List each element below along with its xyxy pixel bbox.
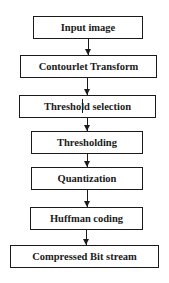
node-compressed-bit-stream: Compressed Bit stream: [10, 245, 159, 268]
node-label: Input image: [61, 22, 116, 33]
node-quantization: Quantization: [31, 167, 143, 190]
arrow-down-icon: [87, 154, 88, 167]
node-label: Threshold selection: [44, 101, 131, 112]
node-label: Compressed Bit stream: [32, 251, 137, 262]
arrow-down-icon: [87, 78, 88, 95]
node-threshold-selection: Threshold selection: [19, 95, 156, 118]
node-label: Contourlet Transform: [39, 61, 139, 72]
node-label: Quantization: [58, 173, 117, 184]
node-label: Huffman coding: [50, 213, 123, 224]
arrow-down-icon: [87, 190, 88, 207]
arrow-down-icon: [87, 118, 88, 131]
node-contourlet-transform: Contourlet Transform: [20, 55, 157, 78]
node-input-image: Input image: [33, 16, 143, 39]
text-cursor-mark: [82, 99, 83, 113]
arrow-down-icon: [86, 230, 87, 245]
node-label: Thresholding: [57, 137, 117, 148]
node-thresholding: Thresholding: [31, 131, 143, 154]
arrow-down-icon: [88, 39, 89, 55]
node-huffman-coding: Huffman coding: [30, 207, 143, 230]
